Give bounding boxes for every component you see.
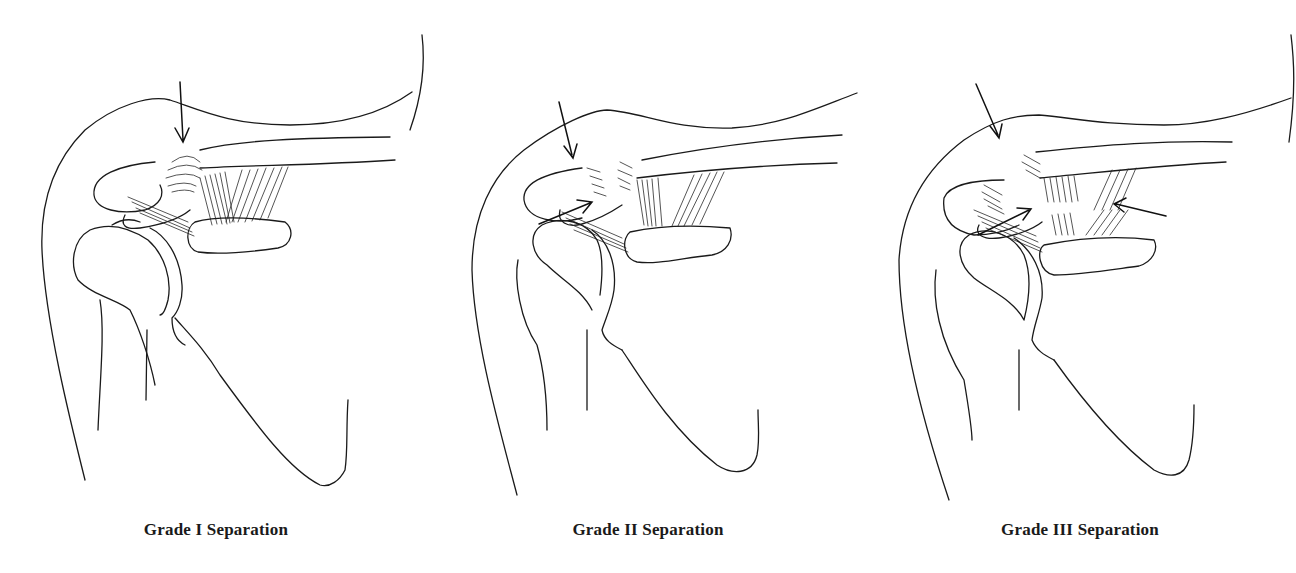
panel-grade-3: Grade III Separation [864,0,1296,573]
arrow-icon [0,0,432,573]
arrow-icon [432,0,864,573]
caption-grade-3: Grade III Separation [864,520,1296,540]
caption-grade-2: Grade II Separation [432,520,864,540]
panel-grade-1: Grade I Separation [0,0,432,573]
caption-grade-1: Grade I Separation [0,520,432,540]
panel-grade-2: Grade II Separation [432,0,864,573]
arrow-icon [864,0,1296,573]
